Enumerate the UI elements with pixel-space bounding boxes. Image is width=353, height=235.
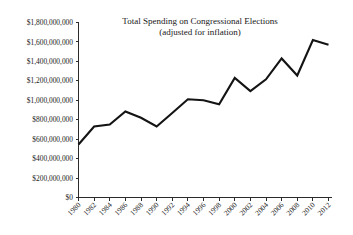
x-axis-tick-label: 1988 bbox=[128, 200, 145, 217]
x-axis-tick-label: 1990 bbox=[144, 200, 161, 217]
x-axis-tick-label: 2000 bbox=[222, 200, 239, 217]
x-axis-tick-label: 2004 bbox=[253, 200, 270, 217]
y-axis-tick-label: $1,000,000,000 bbox=[27, 96, 73, 105]
y-axis-tick-label: $1,200,000,000 bbox=[27, 76, 73, 85]
y-axis-tick-label: $600,000,000 bbox=[32, 135, 73, 144]
x-axis-tick-label: 2008 bbox=[284, 200, 301, 217]
x-axis-tick-labels: 1980198219841986198819901992199419961998… bbox=[66, 200, 333, 217]
y-axis-tick-label: $800,000,000 bbox=[32, 115, 73, 124]
y-axis-tick-labels: $0$200,000,000$400,000,000$600,000,000$8… bbox=[27, 18, 74, 202]
x-axis-tick-label: 1986 bbox=[112, 200, 129, 217]
y-axis-tick-label: $1,400,000,000 bbox=[27, 57, 73, 66]
x-axis-tick-label: 1992 bbox=[159, 200, 176, 217]
x-axis-tick-label: 1984 bbox=[97, 200, 114, 217]
x-axis-tick-label: 1994 bbox=[175, 200, 192, 217]
x-axis-tick-label: 2002 bbox=[237, 200, 254, 217]
x-axis-tick-label: 1996 bbox=[191, 200, 208, 217]
y-axis-tick-label: $0 bbox=[66, 193, 74, 202]
y-axis-tick-label: $200,000,000 bbox=[32, 174, 73, 183]
x-axis-tick-label: 2006 bbox=[269, 200, 286, 217]
chart-plot-area: $0$200,000,000$400,000,000$600,000,000$8… bbox=[0, 0, 353, 235]
x-axis-tick-label: 1980 bbox=[66, 200, 83, 217]
x-axis-tick-label: 2010 bbox=[300, 200, 317, 217]
y-axis-tick-label: $400,000,000 bbox=[32, 154, 73, 163]
data-series-line bbox=[79, 40, 329, 145]
y-axis-tick-label: $1,800,000,000 bbox=[27, 18, 73, 27]
y-axis-tick-label: $1,600,000,000 bbox=[27, 38, 73, 47]
x-axis-tick-label: 2012 bbox=[316, 200, 333, 217]
chart-container: Total Spending on Congressional Election… bbox=[0, 0, 353, 235]
x-axis-tick-label: 1982 bbox=[81, 200, 98, 217]
x-axis-tick-label: 1998 bbox=[206, 200, 223, 217]
